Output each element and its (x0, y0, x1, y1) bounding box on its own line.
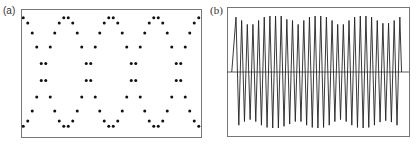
data-point (62, 125, 65, 128)
data-point (71, 120, 74, 123)
data-point (80, 95, 83, 98)
data-point (188, 32, 191, 35)
data-point (112, 125, 115, 128)
data-point (134, 79, 137, 82)
data-point (143, 32, 146, 35)
data-point (148, 120, 151, 123)
figure-canvas (0, 0, 419, 146)
data-point (193, 21, 196, 24)
data-point (125, 46, 128, 49)
data-point (58, 120, 61, 123)
data-point (76, 109, 79, 112)
data-point (148, 21, 151, 24)
data-point (121, 32, 124, 35)
data-point (157, 125, 160, 128)
data-point (31, 109, 34, 112)
data-point (98, 32, 101, 35)
data-point (53, 109, 56, 112)
data-point (179, 79, 182, 82)
data-point (188, 109, 191, 112)
data-point (76, 32, 79, 35)
data-point (31, 32, 34, 35)
data-point (103, 120, 106, 123)
data-point (130, 62, 133, 65)
data-point (121, 109, 124, 112)
data-point (22, 125, 25, 128)
data-point (197, 16, 200, 19)
data-point (71, 21, 74, 24)
data-point (152, 16, 155, 19)
data-point (116, 120, 119, 123)
data-point (40, 79, 43, 82)
data-point (130, 79, 133, 82)
data-point (170, 46, 173, 49)
data-point (184, 95, 187, 98)
data-point (161, 21, 164, 24)
data-point (139, 46, 142, 49)
data-point (103, 21, 106, 24)
data-point (67, 125, 70, 128)
data-point (26, 120, 29, 123)
data-point (197, 125, 200, 128)
data-point (166, 109, 169, 112)
data-point (85, 62, 88, 65)
data-point (134, 62, 137, 65)
data-point (40, 62, 43, 65)
data-point (26, 21, 29, 24)
panel-a-chart (22, 10, 202, 138)
data-point (193, 120, 196, 123)
data-point (89, 62, 92, 65)
data-point (89, 79, 92, 82)
data-point (98, 109, 101, 112)
data-point (179, 62, 182, 65)
data-point (175, 62, 178, 65)
data-point (175, 79, 178, 82)
data-point (94, 46, 97, 49)
panel-a-frame (22, 10, 202, 138)
data-point (184, 46, 187, 49)
data-point (139, 95, 142, 98)
data-point (107, 125, 110, 128)
data-point (157, 16, 160, 19)
data-point (80, 46, 83, 49)
data-point (143, 109, 146, 112)
data-point (125, 95, 128, 98)
data-point (67, 16, 70, 19)
panel-b-chart (227, 8, 410, 137)
panel-b-waveform (232, 16, 402, 128)
data-point (170, 95, 173, 98)
data-point (49, 95, 52, 98)
data-point (161, 120, 164, 123)
data-point (58, 21, 61, 24)
data-point (62, 16, 65, 19)
data-point (112, 16, 115, 19)
data-point (22, 16, 25, 19)
data-point (44, 62, 47, 65)
data-point (53, 32, 56, 35)
panel-a-dots (22, 16, 201, 128)
data-point (152, 125, 155, 128)
data-point (166, 32, 169, 35)
data-point (85, 79, 88, 82)
data-point (35, 46, 38, 49)
data-point (35, 95, 38, 98)
data-point (116, 21, 119, 24)
data-point (49, 46, 52, 49)
data-point (107, 16, 110, 19)
data-point (94, 95, 97, 98)
data-point (44, 79, 47, 82)
